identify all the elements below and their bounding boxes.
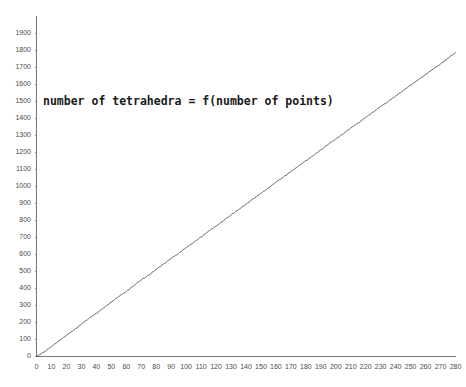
- y-tick-label: 300: [19, 301, 31, 308]
- x-tick-label: 130: [225, 363, 237, 370]
- y-tick-label: 600: [19, 250, 31, 257]
- x-tick-label: 70: [137, 363, 145, 370]
- x-tick-label: 40: [92, 363, 100, 370]
- chart-title: number of tetrahedra = f(number of point…: [43, 94, 334, 108]
- y-tick-label: 700: [19, 233, 31, 240]
- y-tick-label: 1300: [15, 131, 31, 138]
- y-tick-label: 200: [19, 318, 31, 325]
- x-tick-label: 50: [107, 363, 115, 370]
- y-tick-label: 1900: [15, 29, 31, 36]
- x-tick-label: 10: [48, 363, 56, 370]
- chart-container: 0100200300400500600700800900100011001200…: [0, 0, 466, 387]
- x-tick-label: 220: [360, 363, 372, 370]
- y-tick-label: 1400: [15, 114, 31, 121]
- y-tick-label: 1600: [15, 80, 31, 87]
- line-chart: 0100200300400500600700800900100011001200…: [0, 0, 466, 387]
- y-tick-label: 100: [19, 335, 31, 342]
- y-tick-label: 1700: [15, 63, 31, 70]
- x-tick-label: 190: [315, 363, 327, 370]
- x-tick-label: 180: [300, 363, 312, 370]
- x-tick-label: 110: [196, 363, 207, 370]
- x-tick-label: 250: [405, 363, 417, 370]
- x-tick-label: 240: [390, 363, 402, 370]
- x-tick-label: 260: [420, 363, 432, 370]
- y-tick-label: 400: [19, 284, 31, 291]
- x-tick-label: 270: [435, 363, 447, 370]
- x-tick-label: 100: [180, 363, 192, 370]
- x-tick-label: 200: [330, 363, 342, 370]
- chart-background: [0, 0, 466, 387]
- x-tick-label: 170: [285, 363, 297, 370]
- x-tick-label: 0: [35, 363, 39, 370]
- x-tick-label: 120: [210, 363, 222, 370]
- y-tick-label: 1000: [15, 182, 31, 189]
- x-axis-tick-labels: 0102030405060708090100110120130140150160…: [35, 363, 462, 370]
- y-tick-label: 1800: [15, 46, 31, 53]
- x-tick-label: 160: [270, 363, 282, 370]
- x-tick-label: 90: [167, 363, 175, 370]
- y-tick-label: 1500: [15, 97, 31, 104]
- x-tick-label: 150: [255, 363, 267, 370]
- y-tick-label: 500: [19, 267, 31, 274]
- x-tick-label: 280: [450, 363, 462, 370]
- x-tick-label: 140: [240, 363, 252, 370]
- y-tick-label: 0: [27, 352, 31, 359]
- x-tick-label: 80: [152, 363, 160, 370]
- x-tick-label: 30: [77, 363, 85, 370]
- y-tick-label: 1200: [15, 148, 31, 155]
- y-tick-label: 900: [19, 199, 31, 206]
- y-tick-label: 1100: [16, 165, 31, 172]
- x-tick-label: 210: [345, 363, 357, 370]
- x-tick-label: 230: [375, 363, 387, 370]
- x-tick-label: 20: [63, 363, 71, 370]
- y-tick-label: 800: [19, 216, 31, 223]
- x-tick-label: 60: [122, 363, 130, 370]
